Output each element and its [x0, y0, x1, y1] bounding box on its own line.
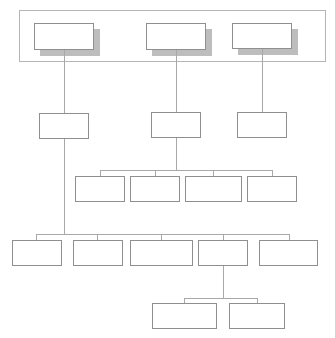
connector — [262, 49, 263, 112]
node-l3-4[interactable] — [247, 176, 297, 202]
node-l3-3[interactable] — [185, 176, 242, 202]
node-top-1[interactable] — [34, 23, 94, 50]
node-top-2[interactable] — [146, 23, 206, 50]
connector — [176, 138, 177, 170]
connector — [100, 170, 272, 171]
node-l3-1[interactable] — [75, 176, 125, 202]
node-l4-5[interactable] — [259, 240, 318, 266]
connector — [36, 234, 289, 235]
node-l3-2[interactable] — [130, 176, 180, 202]
connector — [64, 139, 65, 234]
connector — [223, 266, 224, 298]
node-l4-3[interactable] — [130, 240, 193, 266]
node-l4-2[interactable] — [73, 240, 123, 266]
connector — [184, 298, 257, 299]
node-l2-a[interactable] — [39, 113, 89, 139]
node-l4-1[interactable] — [12, 240, 62, 266]
node-l4-4[interactable] — [198, 240, 248, 266]
node-top-3[interactable] — [232, 23, 292, 49]
connector — [64, 50, 65, 113]
node-l2-c[interactable] — [237, 112, 287, 138]
connector — [176, 50, 177, 112]
node-l5-2[interactable] — [229, 303, 285, 329]
node-l5-1[interactable] — [152, 303, 217, 329]
node-l2-b[interactable] — [151, 112, 201, 138]
